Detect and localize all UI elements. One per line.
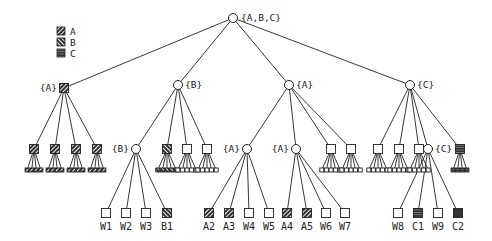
leaf-node [176, 168, 180, 172]
level2-circle-node [243, 145, 252, 154]
leaf-node [170, 168, 174, 172]
level2-circle-node [424, 145, 433, 154]
legend-swatch-c [57, 49, 65, 57]
leaf-label-w9: W9 [432, 221, 444, 232]
root-label: {A,B,C} [241, 12, 281, 23]
leaf-node [210, 168, 214, 172]
labeled-leaf-node [102, 209, 111, 218]
edge-to-labeled-leaf [296, 149, 307, 213]
level1-square-node [60, 84, 69, 93]
root-node [229, 14, 238, 23]
leaf-node [102, 168, 106, 172]
level2-square-node [456, 145, 465, 154]
edge-level1-to-level2 [399, 85, 410, 149]
leaf-node [196, 168, 200, 172]
labeled-leaf-node [414, 209, 423, 218]
leaf-node [81, 168, 85, 172]
leaf-node [205, 168, 209, 172]
leaf-node [39, 168, 43, 172]
edge-to-labeled-leaf [247, 149, 249, 213]
leaf-node [156, 168, 160, 172]
leaf-label-w3: W3 [140, 221, 152, 232]
level2-square-node [395, 145, 404, 154]
edge-root-to-level1 [233, 18, 289, 85]
leaf-node [180, 168, 184, 172]
edge-to-labeled-leaf [428, 149, 438, 213]
level2-label: {B} [112, 143, 129, 154]
leaf-node [46, 168, 50, 172]
leaf-node [397, 168, 401, 172]
leaf-label-w1: W1 [100, 221, 112, 232]
leaf-node [329, 168, 333, 172]
edge-level1-to-level2 [167, 85, 178, 149]
level2-square-node [415, 145, 424, 154]
level2-square-node [30, 145, 39, 154]
leaf-node [344, 168, 348, 172]
leaf-node [25, 168, 29, 172]
level2-square-node [374, 145, 383, 154]
edge-to-labeled-leaf [296, 149, 345, 213]
leaf-node [200, 168, 204, 172]
leaf-label-a4: A4 [281, 221, 293, 232]
edge-level1-to-level2 [247, 85, 289, 149]
leaf-node [93, 168, 97, 172]
legend-swatch-b [57, 38, 65, 46]
edge-level1-to-level2 [410, 85, 428, 149]
leaf-node [402, 168, 406, 172]
edge-to-labeled-leaf [229, 149, 247, 213]
edge-root-to-level1 [178, 18, 233, 85]
leaf-label-w8: W8 [392, 221, 404, 232]
leaf-node [324, 168, 328, 172]
labeled-leaf-node [454, 209, 463, 218]
labeled-leaf-node [163, 209, 172, 218]
leaf-node [34, 168, 38, 172]
leaf-node [412, 168, 416, 172]
leaf-label-a2: A2 [203, 221, 215, 232]
edge-level1-to-level2 [289, 85, 351, 149]
leaf-label-c2: C2 [452, 221, 464, 232]
labeled-leaf-node [122, 209, 131, 218]
leaf-node [465, 168, 469, 172]
leaf-node [76, 168, 80, 172]
leaf-label-w5: W5 [263, 221, 275, 232]
leaf-node [422, 168, 426, 172]
leaf-node [376, 168, 380, 172]
legend: ABC [57, 26, 76, 59]
legend-label-c: C [70, 48, 76, 59]
labeled-leaf-node [303, 209, 312, 218]
leaf-node [320, 168, 324, 172]
leaf-node [72, 168, 76, 172]
edge-root-to-level1 [64, 18, 233, 88]
level1-label: {B} [185, 79, 202, 90]
legend-swatch-a [57, 27, 65, 35]
labeled-leaf-node [142, 209, 151, 218]
edge-to-labeled-leaf [287, 149, 296, 213]
level2-square-node [203, 145, 212, 154]
level1-circle-node [174, 81, 183, 90]
labeled-leaf-node [245, 209, 254, 218]
leaf-node [30, 168, 34, 172]
level2-label: {C} [435, 143, 452, 154]
edge-level1-to-level2 [378, 85, 410, 149]
level1-label: {A} [40, 82, 57, 93]
labeled-leaf-node [205, 209, 214, 218]
leaf-node [358, 168, 362, 172]
leaf-node [165, 168, 169, 172]
leaf-node [349, 168, 353, 172]
level2-square-node [183, 145, 192, 154]
leaf-label-w4: W4 [243, 221, 255, 232]
leaf-node [354, 168, 358, 172]
labeled-leaf-node [225, 209, 234, 218]
labeled-leaf-node [394, 209, 403, 218]
leaf-node [67, 168, 71, 172]
labeled-leaf-node [265, 209, 274, 218]
leaf-node [451, 168, 455, 172]
leaf-node [371, 168, 375, 172]
leaf-node [160, 168, 164, 172]
level1-label: {C} [417, 79, 434, 90]
leaf-node [185, 168, 189, 172]
leaf-label-a3: A3 [223, 221, 235, 232]
edge-to-labeled-leaf [126, 149, 136, 213]
edge-to-labeled-leaf [296, 149, 326, 213]
labeled-leaf-node [341, 209, 350, 218]
